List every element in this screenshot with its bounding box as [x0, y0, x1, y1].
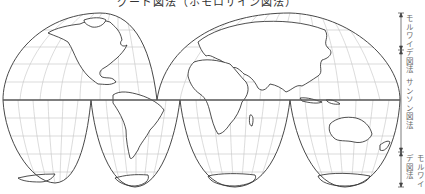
new-zealand [380, 141, 390, 150]
north-america [48, 20, 127, 84]
label-sanson: サンソン図法 [403, 78, 414, 129]
label-mollweide-bottom: モルワイデ図法 [403, 154, 425, 194]
australia [329, 117, 372, 142]
madagascar [249, 115, 253, 126]
south-america [113, 92, 164, 159]
landmasses [18, 18, 390, 186]
africa [188, 60, 248, 134]
label-mollweide-top: モルワイデ図法 [403, 14, 414, 74]
